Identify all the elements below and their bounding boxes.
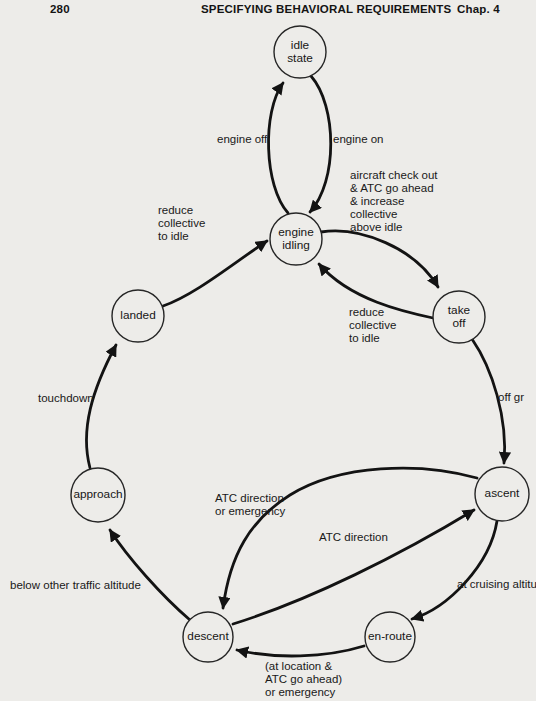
- transition-arrow-engine-on: [310, 76, 331, 212]
- transition-label-touchdown: touchdown: [38, 392, 94, 405]
- transition-label-engine-off: engine off: [217, 133, 267, 146]
- state-label-take-off: take off: [448, 304, 470, 330]
- transition-arrow-reduce-collective-landed: [163, 241, 267, 306]
- state-label-idle-state: idle state: [287, 39, 313, 65]
- state-label-engine-idling: engine idling: [278, 226, 313, 252]
- transition-arrow-at-cruising-altitude: [412, 521, 497, 619]
- transition-label-at-location: (at location & ATC go ahead) or emergenc…: [265, 660, 342, 699]
- transition-label-at-cruising-altitude: at cruising altitu: [457, 578, 536, 591]
- book-page: 280 SPECIFYING BEHAVIORAL REQUIREMENTS C…: [0, 0, 536, 701]
- transition-arrow-touchdown: [86, 345, 116, 468]
- state-label-approach: approach: [73, 488, 122, 501]
- transition-label-reduce-collective-takeoff: reduce collective to idle: [349, 306, 396, 345]
- state-label-ascent: ascent: [485, 487, 520, 500]
- state-label-landed: landed: [120, 309, 155, 322]
- transition-label-below-other-traffic: below other traffic altitude: [10, 579, 141, 592]
- transition-arrow-at-location: [237, 646, 364, 656]
- state-diagram: [0, 0, 536, 701]
- state-label-en-route: en-route: [368, 630, 412, 643]
- transition-arrow-aircraft-check-out: [321, 231, 438, 287]
- transition-label-reduce-collective-landed: reduce collective to idle: [158, 204, 205, 243]
- transition-label-aircraft-check-out: aircraft check out & ATC go ahead & incr…: [350, 169, 438, 233]
- state-label-descent: descent: [187, 630, 228, 643]
- transition-label-engine-on: engine on: [333, 133, 384, 146]
- transition-label-off-ground: off gr: [498, 391, 524, 404]
- transition-label-atc-direction-or-emergency: ATC direction or emergency: [215, 492, 285, 518]
- transition-label-atc-direction: ATC direction: [319, 531, 388, 544]
- transition-arrow-engine-off: [269, 83, 288, 213]
- transition-arrow-below-other-traffic: [110, 530, 190, 620]
